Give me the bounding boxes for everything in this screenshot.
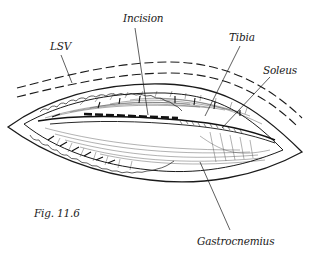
label-gastrocnemius: Gastrocnemius	[197, 236, 274, 247]
incision-leader	[135, 28, 148, 115]
label-lsv: LSV	[50, 41, 71, 52]
wound-outline	[8, 84, 302, 182]
tibia-border	[38, 116, 275, 143]
tibia-leader	[205, 46, 240, 116]
figure-caption: Fig. 11.6	[34, 208, 80, 219]
label-tibia: Tibia	[229, 32, 255, 43]
gastrocnemius-leader	[200, 162, 230, 230]
soleus-leader	[222, 77, 270, 128]
label-soleus: Soleus	[263, 65, 297, 76]
anatomical-figure: LSV Incision Tibia Soleus Gastrocnemius …	[0, 0, 316, 254]
lsv-leader	[61, 55, 72, 83]
label-incision: Incision	[123, 13, 163, 24]
